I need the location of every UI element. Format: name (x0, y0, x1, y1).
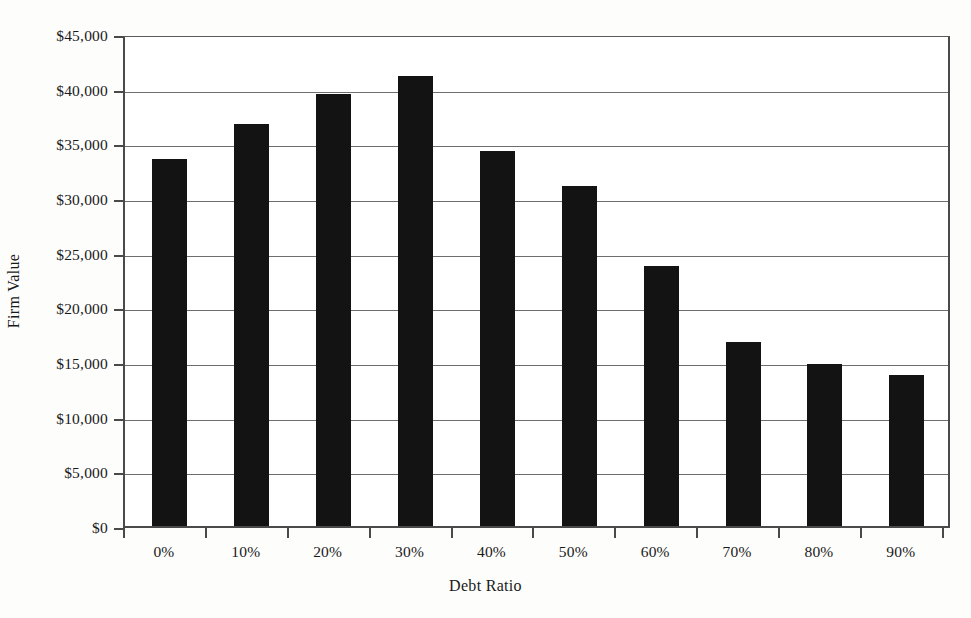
x-axis-tick (369, 528, 371, 538)
y-axis-tick-label: $10,000 (56, 410, 108, 428)
x-axis-tick-label: 70% (696, 543, 778, 561)
bar (234, 124, 269, 526)
bar (316, 94, 351, 526)
bar (889, 375, 924, 526)
plot-area (123, 36, 950, 528)
x-axis-tick (696, 528, 698, 538)
x-axis-tick-label: 10% (205, 543, 287, 561)
bar (562, 186, 597, 526)
y-axis-tick (114, 36, 123, 38)
x-axis-tick-label: 0% (123, 543, 205, 561)
y-axis-tick (114, 91, 123, 93)
bar (726, 342, 761, 526)
y-axis-tick-label: $30,000 (56, 191, 108, 209)
x-axis-tick (205, 528, 207, 538)
y-axis-tick (114, 200, 123, 202)
y-axis-tick (114, 528, 123, 530)
y-axis-tick-label: $5,000 (64, 464, 108, 482)
y-axis-tick (114, 145, 123, 147)
bar (644, 266, 679, 526)
x-axis-tick (287, 528, 289, 538)
y-axis-tick (114, 255, 123, 257)
y-axis-tick-label: $45,000 (56, 27, 108, 45)
x-axis-tick-label: 90% (860, 543, 942, 561)
x-axis-tick (123, 528, 125, 538)
x-axis-tick-label: 50% (532, 543, 614, 561)
bar (152, 159, 187, 526)
y-axis-tick-label: $25,000 (56, 246, 108, 264)
x-axis-tick (532, 528, 534, 538)
bar (398, 76, 433, 526)
gridline (125, 92, 948, 93)
y-axis-tick-label: $20,000 (56, 300, 108, 318)
bar (807, 364, 842, 526)
y-axis-tick-label: $35,000 (56, 136, 108, 154)
x-axis-tick-label: 40% (450, 543, 532, 561)
bar (480, 151, 515, 526)
y-axis-tick-label: $0 (92, 519, 108, 537)
x-axis-tick (778, 528, 780, 538)
y-axis-tick (114, 364, 123, 366)
y-axis-title: Firm Value (5, 254, 23, 328)
chart-figure: $0$5,000$10,000$15,000$20,000$25,000$30,… (0, 0, 971, 618)
x-axis-tick-label: 30% (369, 543, 451, 561)
x-axis-tick (614, 528, 616, 538)
x-axis-tick (942, 528, 944, 538)
y-axis-tick-label: $15,000 (56, 355, 108, 373)
x-axis-tick-label: 60% (614, 543, 696, 561)
x-axis-tick (451, 528, 453, 538)
x-axis-tick-label: 80% (778, 543, 860, 561)
x-axis-tick-label: 20% (287, 543, 369, 561)
x-axis-tick (860, 528, 862, 538)
x-axis-title: Debt Ratio (0, 577, 971, 595)
y-axis-tick (114, 309, 123, 311)
y-axis-tick (114, 473, 123, 475)
y-axis-tick-label: $40,000 (56, 82, 108, 100)
y-axis-tick (114, 419, 123, 421)
